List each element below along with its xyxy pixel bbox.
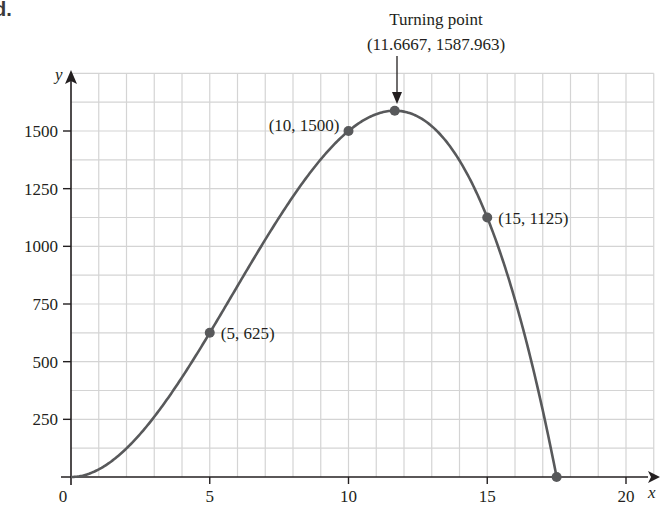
data-point bbox=[390, 106, 400, 116]
data-points bbox=[205, 106, 562, 482]
x-tick-label: 10 bbox=[340, 487, 357, 506]
point-label: (15, 1125) bbox=[498, 209, 568, 228]
x-axis-label: x bbox=[647, 483, 656, 502]
data-point bbox=[552, 472, 562, 482]
annotation-title: Turning point bbox=[389, 10, 483, 29]
x-tick-label: 5 bbox=[206, 487, 215, 506]
data-point bbox=[344, 126, 354, 136]
point-label: (10, 1500) bbox=[269, 116, 340, 135]
chart: xy 05101520250500750100012501500 (5, 625… bbox=[0, 0, 665, 529]
curve-line bbox=[71, 111, 557, 477]
y-axis-label: y bbox=[53, 65, 63, 84]
y-tick-label: 1250 bbox=[24, 180, 58, 199]
x-tick-label: 0 bbox=[59, 487, 68, 506]
x-tick-label: 15 bbox=[479, 487, 496, 506]
x-tick-label: 20 bbox=[618, 487, 635, 506]
point-label: (5, 625) bbox=[221, 324, 275, 343]
y-tick-label: 250 bbox=[33, 410, 59, 429]
grid bbox=[71, 73, 654, 477]
data-point bbox=[482, 213, 492, 223]
annotation-coords: (11.6667, 1587.963) bbox=[367, 35, 505, 54]
y-tick-label: 1000 bbox=[24, 237, 58, 256]
data-point bbox=[205, 328, 215, 338]
turning-point-annotation: Turning point (11.6667, 1587.963) bbox=[367, 10, 505, 104]
y-tick-label: 1500 bbox=[24, 122, 58, 141]
y-tick-label: 500 bbox=[33, 353, 59, 372]
y-tick-label: 750 bbox=[33, 295, 59, 314]
